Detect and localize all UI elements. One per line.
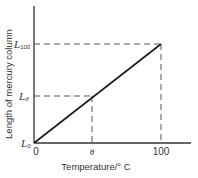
y-tick-l100: L100 [13, 38, 31, 50]
y-tick-l0: L0 [20, 137, 31, 149]
data-line [34, 44, 161, 143]
x-tick-100: 100 [153, 146, 170, 157]
y-tick-ltheta: Lθ [18, 90, 29, 103]
chart-svg: L100 Lθ L0 0 θ 100 Temperature/° C Lengt… [0, 0, 198, 178]
x-axis-title: Temperature/° C [61, 161, 130, 172]
x-tick-theta: θ [90, 147, 95, 157]
x-tick-0: 0 [33, 146, 39, 157]
y-axis-title: Length of mercury column [3, 29, 14, 139]
